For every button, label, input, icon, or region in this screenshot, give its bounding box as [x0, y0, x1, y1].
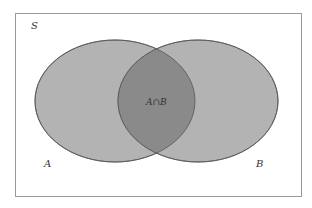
set-b-label: B	[256, 158, 263, 169]
universe-label: S	[31, 20, 38, 31]
set-a-label: A	[44, 158, 51, 169]
intersection-label: A∩B	[146, 97, 167, 107]
